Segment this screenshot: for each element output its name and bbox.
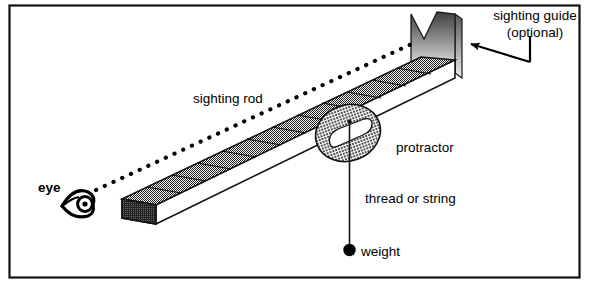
label-sighting-guide-line1: sighting guide [493,8,576,23]
label-sighting-guide-line2: (optional) [507,25,563,40]
diagram-canvas: sighting rod sighting guide (optional) p… [0,0,589,285]
label-weight: weight [360,244,400,259]
sighting-guide-side-face [455,14,462,78]
diagram-figure: sighting rod sighting guide (optional) p… [0,0,589,285]
label-protractor: protractor [396,140,454,155]
weight-ball [343,244,355,256]
label-thread-or-string: thread or string [365,191,456,206]
label-sighting-rod: sighting rod [193,91,263,106]
label-eye: eye [38,180,61,195]
